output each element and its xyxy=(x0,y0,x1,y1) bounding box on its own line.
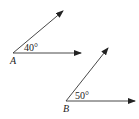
angle-a-measure: 40° xyxy=(24,42,38,53)
angle-b-measure: 50° xyxy=(75,90,89,101)
angle-b: 50° B xyxy=(63,48,135,114)
angle-a: 40° A xyxy=(9,11,81,66)
vertex-a-label: A xyxy=(9,55,17,66)
angle-diagram: 40° A 50° B xyxy=(0,0,139,119)
vertex-b-label: B xyxy=(63,103,69,114)
ray-a-inclined xyxy=(13,11,63,53)
